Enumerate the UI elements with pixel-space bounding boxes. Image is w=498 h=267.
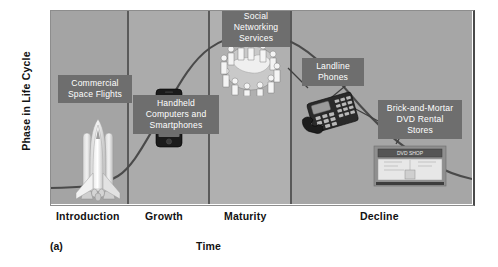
callout-landline-phones: Landline Phones bbox=[302, 58, 364, 86]
callout-line: Services bbox=[227, 33, 285, 44]
callout-line: Commercial bbox=[63, 78, 127, 89]
callout-line: DVD Rental bbox=[383, 114, 457, 125]
callout-line: Networking bbox=[227, 22, 285, 33]
product-life-cycle-figure: Phase in Life Cycle bbox=[0, 0, 498, 267]
callout-line: Brick-and-Mortar bbox=[383, 103, 457, 114]
y-axis-title: Phase in Life Cycle bbox=[20, 26, 32, 176]
plot-area: DVD SHOP Commercial Space Flights Handhe… bbox=[50, 10, 472, 204]
space-shuttle-image bbox=[70, 115, 126, 204]
x-axis-title: Time bbox=[196, 240, 221, 252]
callout-brick-and-mortar-dvd-rental-stores: Brick-and-Mortar DVD Rental Stores bbox=[378, 100, 462, 139]
landline-telephone-image bbox=[298, 88, 362, 140]
callout-commercial-space-flights: Commercial Space Flights bbox=[58, 75, 132, 103]
x-label-introduction: Introduction bbox=[56, 210, 120, 222]
callout-line: Phones bbox=[307, 72, 359, 83]
x-label-maturity: Maturity bbox=[224, 210, 266, 222]
callout-handheld-computers-and-smartphones: Handheld Computers and Smartphones bbox=[133, 95, 219, 134]
callout-line: Landline bbox=[307, 61, 359, 72]
dvd-rental-store-image: DVD SHOP bbox=[372, 142, 448, 190]
callout-line: Space Flights bbox=[63, 89, 127, 100]
x-label-decline: Decline bbox=[360, 210, 399, 222]
x-label-growth: Growth bbox=[145, 210, 183, 222]
callout-social-networking-services: Social Networking Services bbox=[222, 10, 290, 47]
callout-line: Handheld bbox=[138, 98, 214, 109]
callout-line: Stores bbox=[383, 125, 457, 136]
panel-letter: (a) bbox=[50, 240, 63, 252]
callout-line: Smartphones bbox=[138, 120, 214, 131]
dvd-store-sign-text: DVD SHOP bbox=[397, 150, 424, 156]
callout-line: Social bbox=[227, 11, 285, 22]
callout-line: Computers and bbox=[138, 109, 214, 120]
